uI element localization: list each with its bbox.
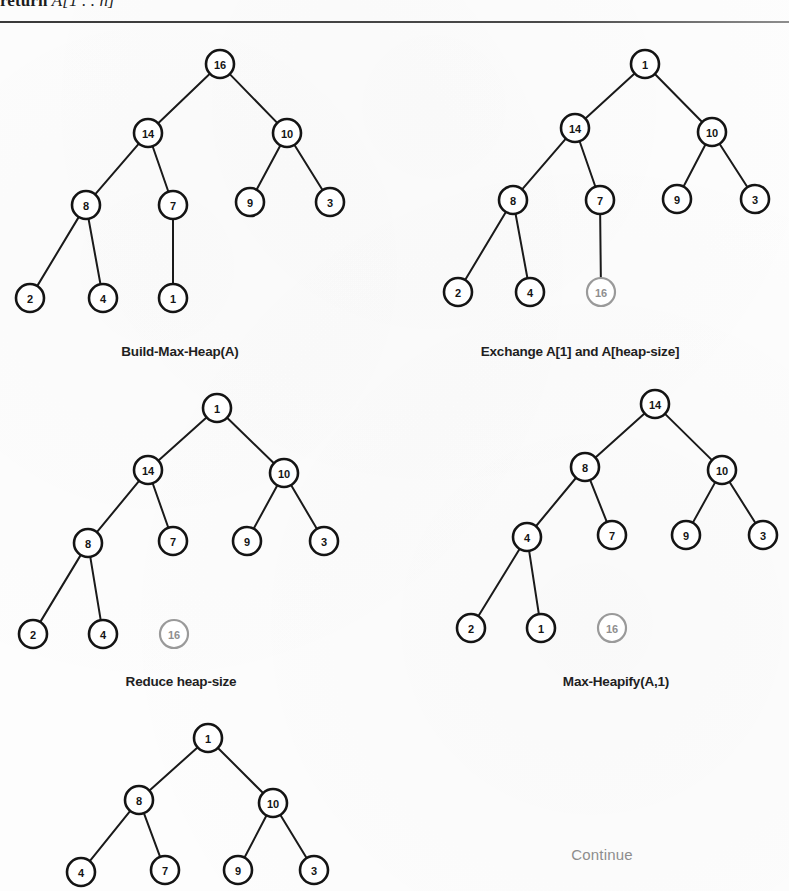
tree-node-label: 8 [582,462,588,474]
tree-edge [579,140,595,187]
tree-edge [88,218,100,285]
tree-edge [40,554,82,623]
tree-panel-continue-step: 18104793 [67,724,328,886]
tree-node: 8 [125,786,153,814]
tree-edge [683,144,706,188]
tree-node: 1 [631,50,659,78]
tree-node-label: 3 [760,530,766,542]
tree-caption: Build-Max-Heap(A) [121,344,238,359]
tree-node: 7 [159,527,187,555]
tree-node-label: 4 [100,293,107,305]
tree-edge [600,213,601,279]
tree-node: 16 [598,614,626,642]
tree-edge [89,810,131,862]
tree-edge [521,138,566,190]
tree-edge [94,143,139,195]
tree-edge [152,482,168,528]
tree-node-label: 8 [85,538,91,550]
tree-node: 10 [698,118,726,146]
tree-node-label: 3 [327,197,333,209]
tree-node: 7 [151,856,179,884]
tree-node-label: 16 [606,623,618,635]
tree-node-label: 9 [683,530,689,542]
tree-edge [152,145,168,192]
tree-node: 1 [159,284,187,312]
tree-node: 8 [74,529,102,557]
tree-caption: Max-Heapify(A,1) [563,674,669,689]
tree-node: 9 [236,188,264,216]
tree-edge [291,484,318,530]
tree-node-label: 1 [214,403,220,415]
tree-node: 3 [310,527,338,555]
tree-node: 8 [499,186,527,214]
tree-node-label: 16 [595,287,607,299]
tree-node-label: 4 [100,629,107,641]
tree-edge [664,413,712,461]
tree-node-label: 1 [170,293,176,305]
tree-edge [253,484,278,529]
tree-edge [229,73,278,123]
tree-panel-build-max-heap: 1614108793241 [16,50,344,312]
tree-node-label: 16 [168,629,180,641]
tree-edge [158,417,208,462]
tree-edge [144,812,161,858]
tree-node: 1 [194,724,222,752]
tree-node: 8 [72,191,100,219]
tree-node-label: 10 [706,127,718,139]
tree-node: 1 [527,614,555,642]
tree-node-label: 1 [642,59,648,71]
tree-node-label: 10 [267,798,279,810]
tree-edge [692,481,715,523]
tree-node: 2 [444,278,472,306]
tree-node: 16 [587,278,615,306]
tree-node: 2 [457,614,485,642]
tree-node-label: 9 [674,194,680,206]
tree-node: 9 [233,527,261,555]
tree-edge [280,814,307,859]
tree-node: 4 [516,278,544,306]
tree-node: 9 [224,856,252,884]
tree-edge [37,216,80,287]
tree-node-label: 7 [597,195,603,207]
tree-node: 2 [16,284,44,312]
tree-edge [590,479,607,523]
tree-edge [465,211,507,281]
tree-caption: Exchange A[1] and A[heap-size] [481,344,680,359]
tree-node: 7 [586,186,614,214]
tree-node: 3 [741,185,769,213]
tree-node: 3 [300,856,328,884]
tree-node-label: 16 [214,59,226,71]
tree-node-label: 2 [455,287,461,299]
tree-node: 10 [273,119,301,147]
tree-node: 3 [316,188,344,216]
tree-edge [529,550,539,615]
tree-node: 9 [663,185,691,213]
scanned-page: return A[1 . . n] 1614108793241114108793… [0,0,789,891]
tree-edge [478,548,520,617]
tree-node: 14 [134,456,162,484]
tree-node: 4 [67,858,95,886]
tree-node-label: 2 [30,629,36,641]
tree-node-label: 14 [142,465,155,477]
tree-edge [595,413,646,459]
tree-panel-reduce-heap-size: 1141087932416 [19,394,338,648]
tree-edge [515,213,527,279]
tree-node-label: 2 [27,293,33,305]
tree-node-label: 3 [321,536,327,548]
tree-node: 2 [19,620,47,648]
tree-node: 7 [598,521,626,549]
tree-edge [226,417,274,464]
tree-panel-max-heapify: 1481047932116 [457,390,777,642]
tree-node-label: 7 [162,865,168,877]
tree-node-label: 14 [142,128,155,140]
tree-edge [654,73,703,122]
tree-node-label: 1 [205,733,211,745]
tree-edge [157,73,210,124]
tree-edge [729,481,756,524]
tree-node-label: 7 [170,200,176,212]
tree-node-label: 7 [609,530,615,542]
tree-edge [535,477,576,527]
heapsort-tree-diagram: 1614108793241114108793241611410879324161… [0,0,789,891]
tree-node-label: 9 [247,197,253,209]
tree-edge [90,556,101,621]
